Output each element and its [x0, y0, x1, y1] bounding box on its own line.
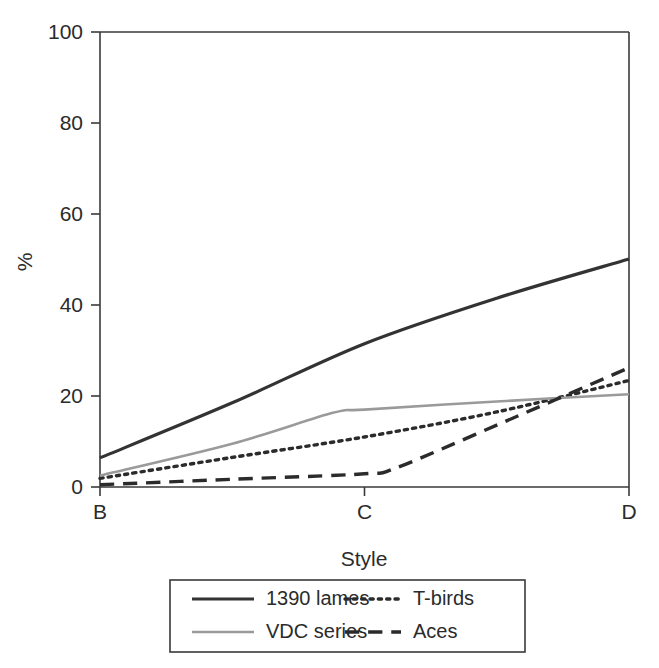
y-tick-label: 60 [60, 202, 83, 225]
y-tick-label: 100 [48, 20, 83, 43]
chart-figure: 020406080100 BCD % Style 1390 lamesT-bir… [0, 0, 659, 668]
legend-item-t-birds-label: T-birds [413, 587, 474, 609]
series-lines [100, 259, 629, 485]
x-axis-ticks [100, 487, 629, 496]
series-line-t-birds [100, 381, 629, 479]
x-axis-tick-labels: BCD [93, 500, 637, 523]
x-tick-label: B [93, 500, 107, 523]
legend: 1390 lamesT-birdsVDC seriesAces [170, 580, 525, 652]
y-tick-label: 80 [60, 111, 83, 134]
y-tick-label: 40 [60, 293, 83, 316]
line-chart: 020406080100 BCD % Style 1390 lamesT-bir… [0, 0, 659, 668]
y-axis-title: % [13, 253, 36, 272]
series-line-1390-lames [100, 259, 629, 458]
y-axis-ticks [91, 32, 100, 487]
plot-frame [100, 32, 629, 487]
series-line-vdc-series [100, 394, 629, 475]
y-tick-label: 0 [71, 475, 83, 498]
x-tick-label: C [357, 500, 372, 523]
y-axis-tick-labels: 020406080100 [48, 20, 83, 498]
y-tick-label: 20 [60, 384, 83, 407]
legend-item-aces-label: Aces [413, 620, 457, 642]
x-tick-label: D [621, 500, 636, 523]
x-axis-title: Style [341, 547, 388, 570]
